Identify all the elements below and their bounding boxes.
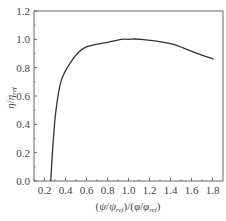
y-tick-label: 0.8 xyxy=(16,62,30,74)
x-axis-label: (ψ/ψref)/(φ/φref) xyxy=(96,200,161,214)
x-tick-label: 1.0 xyxy=(122,184,136,196)
x-tick-label: 1.4 xyxy=(164,184,178,196)
x-tick-label: 0.6 xyxy=(80,184,94,196)
y-tick-label: 0.6 xyxy=(16,90,30,102)
y-tick-label: 0.0 xyxy=(16,175,30,187)
efficiency-curve xyxy=(51,39,214,181)
x-tick-label: 0.4 xyxy=(59,184,73,196)
y-tick-label: 0.4 xyxy=(16,118,30,130)
x-tick-label: 1.8 xyxy=(206,184,220,196)
plot-frame xyxy=(34,11,223,181)
x-tick-label: 1.6 xyxy=(185,184,199,196)
x-tick-label: 0.8 xyxy=(101,184,115,196)
y-axis-label: η/ηref xyxy=(4,86,18,109)
x-tick-label: 1.2 xyxy=(143,184,157,196)
y-tick-label: 1.2 xyxy=(16,5,30,17)
x-tick-label: 0.2 xyxy=(38,184,52,196)
efficiency-chart: 0.00.20.40.60.81.01.2 0.20.40.60.81.01.2… xyxy=(0,0,226,221)
y-tick-label: 0.2 xyxy=(16,147,30,159)
y-tick-label: 1.0 xyxy=(16,33,30,45)
